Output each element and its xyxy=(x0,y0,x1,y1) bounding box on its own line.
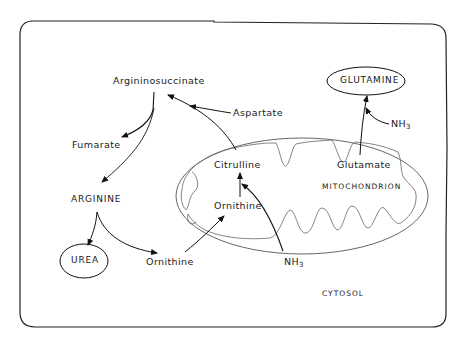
diagram-graphics xyxy=(0,0,472,361)
label-mitochondrion: MITOCHONDRION xyxy=(322,183,401,191)
arrow-nh3-to-glutamine xyxy=(366,108,389,124)
mitochondrion-outer-membrane xyxy=(176,138,428,254)
arrow-citrulline-to-argininosuccinate xyxy=(168,95,236,150)
label-cytosol: CYTOSOL xyxy=(322,290,364,298)
label-ornithine-cytosol: Ornithine xyxy=(146,257,194,267)
label-ornithine-mitochondrion: Ornithine xyxy=(214,201,262,211)
label-arginine: ARGININE xyxy=(71,195,121,204)
cytosol-outline xyxy=(20,21,447,327)
arrow-arginine-to-urea xyxy=(88,212,97,245)
label-urea: UREA xyxy=(71,256,99,265)
label-fumarate: Fumarate xyxy=(72,140,121,150)
label-aspartate: Aspartate xyxy=(233,108,283,118)
urea-cycle-diagram: Argininosuccinate Aspartate Fumarate ARG… xyxy=(0,0,472,361)
arrow-nh3-to-citrulline xyxy=(242,184,283,251)
label-citrulline: Citrulline xyxy=(214,160,261,170)
arrow-ornithine-into-mitochondrion xyxy=(185,216,224,252)
arrow-argininosuccinate-to-fumarate xyxy=(122,92,154,137)
arrow-arginine-to-ornithine xyxy=(97,212,157,253)
label-nh3-glutamine: NH3 xyxy=(391,119,411,129)
label-nh3-citrulline: NH3 xyxy=(284,257,304,267)
label-glutamate: Glutamate xyxy=(337,160,391,170)
cytosol-boundary xyxy=(20,22,225,164)
label-argininosuccinate: Argininosuccinate xyxy=(113,76,205,86)
label-glutamine: GLUTAMINE xyxy=(340,76,399,85)
